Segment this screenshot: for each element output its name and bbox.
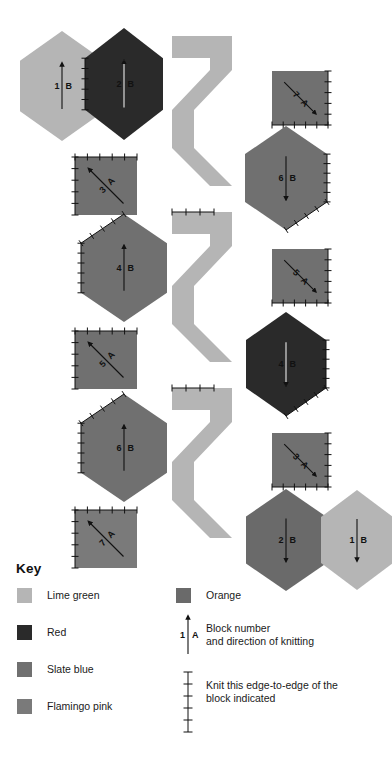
key-arrow-line1: Block number xyxy=(206,622,270,636)
block-r1-number: 1 xyxy=(349,535,354,545)
block-l2: 2B xyxy=(82,28,164,140)
block-l6: 6B xyxy=(78,391,168,502)
center-strip-1 xyxy=(172,36,232,186)
center-strip-shape xyxy=(172,36,232,186)
block-l7: 7A xyxy=(72,507,138,569)
block-r5: 5A xyxy=(272,249,332,307)
block-r4: 4B xyxy=(246,312,330,419)
key-tick-line2: block indicated xyxy=(206,692,275,706)
block-r3: 3A xyxy=(272,433,332,491)
knitting-layout-svg: 1B2B3A4B5A6B7A7A6B5A4B3A2B1B xyxy=(0,0,392,774)
block-l4-letter: B xyxy=(128,263,135,273)
block-l2-number: 2 xyxy=(116,79,121,89)
diagram-canvas: 1B2B3A4B5A6B7A7A6B5A4B3A2B1B xyxy=(0,0,392,774)
block-l4: 4B xyxy=(78,211,168,322)
block-r6-letter: B xyxy=(290,173,297,183)
key-label-red: Red xyxy=(47,626,66,640)
block-r7: 7A xyxy=(272,71,332,129)
block-l4-number: 4 xyxy=(116,263,121,273)
key-swatch-orange xyxy=(176,588,191,603)
block-l3: 3A xyxy=(72,154,138,216)
block-r1-letter: B xyxy=(361,535,368,545)
center-strip-shape xyxy=(172,388,232,538)
key-label-flamingo-pink: Flamingo pink xyxy=(47,700,112,714)
center-strip-shape xyxy=(172,212,232,362)
block-r4-letter: B xyxy=(290,359,297,369)
key-label-slate-blue: Slate blue xyxy=(47,663,94,677)
key-label-lime-green: Lime green xyxy=(47,589,100,603)
center-strip-2 xyxy=(172,209,232,363)
key-swatch-red xyxy=(17,625,32,640)
block-l1-letter: B xyxy=(66,81,73,91)
block-r2: 2B xyxy=(246,489,330,591)
block-r1: 1B xyxy=(321,490,392,590)
block-r4-number: 4 xyxy=(278,359,283,369)
block-l5: 5A xyxy=(72,328,138,390)
block-l6-letter: B xyxy=(128,443,135,453)
block-r6: 6B xyxy=(245,126,331,233)
key-label-orange: Orange xyxy=(206,589,241,603)
block-r2-number: 2 xyxy=(278,535,283,545)
key-tick-line1: Knit this edge-to-edge of the xyxy=(206,679,338,693)
block-l2-letter: B xyxy=(128,79,135,89)
block-l6-number: 6 xyxy=(116,443,121,453)
key-arrow-line2: and direction of knitting xyxy=(206,635,314,649)
block-l1-number: 1 xyxy=(54,81,59,91)
block-r6-number: 6 xyxy=(278,173,283,183)
key-swatch-slate-blue xyxy=(17,662,32,677)
center-strip-3 xyxy=(172,385,232,539)
key-heading: Key xyxy=(16,561,41,576)
key-swatch-lime-green xyxy=(17,588,32,603)
block-r2-letter: B xyxy=(290,535,297,545)
key-swatch-flamingo-pink xyxy=(17,699,32,714)
